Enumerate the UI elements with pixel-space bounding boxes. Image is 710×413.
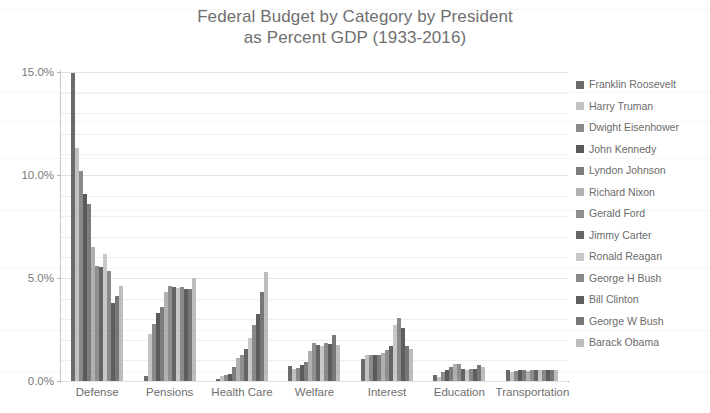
legend-item[interactable]: Barack Obama	[576, 332, 708, 354]
bar-group	[206, 72, 278, 381]
legend-item[interactable]: Franklin Roosevelt	[576, 74, 708, 96]
legend-swatch-icon	[576, 296, 584, 304]
legend-item[interactable]: Harry Truman	[576, 96, 708, 118]
legend-label: Harry Truman	[589, 101, 653, 112]
bar-group	[61, 72, 133, 381]
x-axis-label: Pensions	[133, 386, 205, 399]
x-axis-label: Education	[423, 386, 495, 399]
y-tick-label: 5.0%	[6, 272, 54, 284]
x-axis-label: Defense	[61, 386, 133, 399]
legend-swatch-icon	[576, 210, 584, 218]
bar-group	[351, 72, 423, 381]
bar	[554, 370, 558, 381]
legend-swatch-icon	[576, 124, 584, 132]
legend: Franklin RooseveltHarry TrumanDwight Eis…	[576, 74, 708, 354]
bar-group	[496, 72, 568, 381]
x-axis-label: Interest	[351, 386, 423, 399]
x-axis-label: Transportation	[496, 386, 568, 399]
legend-item[interactable]: John Kennedy	[576, 139, 708, 161]
bar-group	[278, 72, 350, 381]
legend-swatch-icon	[576, 231, 584, 239]
legend-item[interactable]: Richard Nixon	[576, 182, 708, 204]
x-axis-label: Welfare	[278, 386, 350, 399]
legend-label: Barack Obama	[589, 337, 659, 348]
bar	[336, 345, 340, 381]
legend-item[interactable]: Gerald Ford	[576, 203, 708, 225]
legend-item[interactable]: Jimmy Carter	[576, 225, 708, 247]
chart-title: Federal Budget by Category by President …	[0, 6, 710, 48]
y-tick-mark	[57, 381, 61, 382]
legend-label: George W Bush	[589, 316, 664, 327]
legend-label: Ronald Reagan	[589, 251, 662, 262]
legend-item[interactable]: Lyndon Johnson	[576, 160, 708, 182]
legend-label: George H Bush	[589, 273, 661, 284]
gridline-major	[61, 381, 568, 382]
bar	[481, 367, 485, 381]
legend-label: Franklin Roosevelt	[589, 79, 676, 90]
legend-label: Dwight Eisenhower	[589, 122, 679, 133]
legend-swatch-icon	[576, 253, 584, 261]
y-tick-label: 0.0%	[6, 375, 54, 387]
y-tick-label: 10.0%	[6, 169, 54, 181]
legend-swatch-icon	[576, 339, 584, 347]
legend-label: Bill Clinton	[589, 294, 639, 305]
legend-label: Lyndon Johnson	[589, 165, 666, 176]
x-axis-label: Health Care	[206, 386, 278, 399]
legend-swatch-icon	[576, 317, 584, 325]
legend-label: Jimmy Carter	[589, 230, 651, 241]
legend-swatch-icon	[576, 81, 584, 89]
legend-label: John Kennedy	[589, 144, 656, 155]
y-tick-label: 15.0%	[6, 66, 54, 78]
legend-item[interactable]: Dwight Eisenhower	[576, 117, 708, 139]
bar-group	[423, 72, 495, 381]
legend-item[interactable]: George W Bush	[576, 311, 708, 333]
legend-item[interactable]: George H Bush	[576, 268, 708, 290]
legend-swatch-icon	[576, 102, 584, 110]
bar	[409, 349, 413, 381]
legend-swatch-icon	[576, 145, 584, 153]
legend-swatch-icon	[576, 188, 584, 196]
budget-chart: Federal Budget by Category by President …	[0, 0, 710, 413]
legend-swatch-icon	[576, 167, 584, 175]
legend-item[interactable]: Ronald Reagan	[576, 246, 708, 268]
bar-group	[133, 72, 205, 381]
bar	[264, 272, 268, 381]
legend-swatch-icon	[576, 274, 584, 282]
plot-area	[61, 72, 568, 381]
bar	[192, 278, 196, 381]
legend-item[interactable]: Bill Clinton	[576, 289, 708, 311]
bar	[119, 286, 123, 381]
legend-label: Richard Nixon	[589, 187, 655, 198]
legend-label: Gerald Ford	[589, 208, 645, 219]
